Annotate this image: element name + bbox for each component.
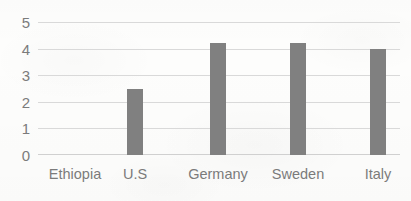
y-tick-label: 3 (4, 68, 30, 83)
y-tick-label: 5 (4, 15, 30, 30)
x-axis: Ethiopia U.S Germany Sweden Italy (38, 163, 400, 193)
plot-area (38, 22, 400, 155)
y-tick-label: 1 (4, 121, 30, 136)
x-tick-label-sweden: Sweden (272, 167, 324, 182)
x-tick-label-us: U.S (123, 167, 147, 182)
bar-chart: 5 4 3 2 1 0 Ethiopia U.S Germany Sweden … (0, 0, 411, 201)
gridline (38, 22, 400, 23)
bar-sweden (290, 43, 306, 155)
y-tick-label: 0 (4, 148, 30, 163)
x-tick-label-ethiopia: Ethiopia (49, 167, 101, 182)
bar-germany (210, 43, 226, 155)
bar-us (127, 89, 143, 156)
x-tick-label-italy: Italy (365, 167, 392, 182)
y-tick-label: 2 (4, 94, 30, 109)
x-tick-label-germany: Germany (188, 167, 248, 182)
y-tick-label: 4 (4, 41, 30, 56)
y-axis: 5 4 3 2 1 0 (0, 22, 30, 155)
bar-italy (370, 49, 386, 155)
